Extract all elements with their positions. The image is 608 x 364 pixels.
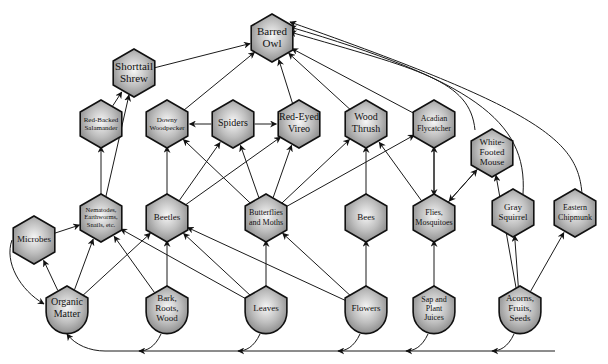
node-label: Bark,Roots,Wood xyxy=(155,293,178,324)
node-gray-squirrel[interactable]: GraySquirrel xyxy=(492,189,534,237)
decay-from-leaves-arrow xyxy=(238,334,260,351)
node-eastern-chipmunk[interactable]: EasternChipmunk xyxy=(554,189,596,237)
decay-flow-layer xyxy=(67,334,555,351)
node-label: Nematodes,Earthworms,Snails, etc. xyxy=(84,206,118,228)
edge-white_footed_mouse-to-flies_mosquitoes xyxy=(449,169,478,201)
node-red-eyed-vireo[interactable]: Red-EyedVireo xyxy=(278,100,320,148)
node-sap-plant-juices[interactable]: Sap andPlantJuices xyxy=(413,286,455,334)
node-flowers[interactable]: Flowers xyxy=(345,286,387,334)
node-label: ShorttailShrew xyxy=(115,59,153,84)
node-label: Red-BackedSalamander xyxy=(84,116,119,132)
edge-organic_matter-to-beetles xyxy=(83,233,150,295)
node-label: Spiders xyxy=(218,117,248,128)
edge-butterflies_moths-to-downy_woodpecker xyxy=(183,140,250,204)
node-wood-thrush[interactable]: WoodThrush xyxy=(345,100,387,148)
node-leaves[interactable]: Leaves xyxy=(245,286,287,334)
node-label: Leaves xyxy=(253,303,279,313)
edge-microbes-to-nematodes xyxy=(55,225,80,233)
edge-butterflies_moths-to-wood_thrush xyxy=(282,139,350,203)
node-nematodes[interactable]: Nematodes,Earthworms,Snails, etc. xyxy=(80,194,122,242)
node-red-backed-salamander[interactable]: Red-BackedSalamander xyxy=(80,100,122,148)
node-acorns-fruits-seeds[interactable]: Acorns,Fruits,Seeds xyxy=(499,286,541,334)
decay-from-sap_plant_juices-arrow xyxy=(406,334,428,351)
edge-butterflies_moths-to-acadian_flycatcher xyxy=(285,135,414,207)
node-bark-roots-wood[interactable]: Bark,Roots,Wood xyxy=(146,286,188,334)
edge-red_eyed_vireo-to-barred_owl xyxy=(279,60,293,104)
edge-acadian_flycatcher-to-barred_owl xyxy=(292,49,415,114)
node-label: Acorns,Fruits,Seeds xyxy=(506,293,534,324)
decay-to-organic-matter-arrow xyxy=(67,334,105,351)
node-label: Butterfliesand Moths xyxy=(249,208,283,226)
node-butterflies-moths[interactable]: Butterfliesand Moths xyxy=(245,194,287,242)
node-shorttail-shrew[interactable]: ShorttailShrew xyxy=(113,49,155,97)
node-label: Microbes xyxy=(17,234,51,244)
node-label: EasternChipmunk xyxy=(558,203,592,221)
node-microbes[interactable]: Microbes xyxy=(13,216,55,264)
node-label: Bees xyxy=(357,212,375,222)
node-label: OrganicMatter xyxy=(51,297,84,320)
edge-downy_woodpecker-to-barred_owl xyxy=(184,52,255,110)
decay-from-acorns_fruits_seeds-arrow xyxy=(492,334,514,351)
edge-organic_matter-to-nematodes xyxy=(74,239,93,290)
edge-red_backed_salamander-to-shorttail_shrew xyxy=(113,92,122,106)
node-acadian-flycatcher[interactable]: AcadianFlycatcher xyxy=(413,100,455,148)
node-label: Flowers xyxy=(352,303,381,313)
edge-shorttail_shrew-to-barred_owl xyxy=(155,44,250,68)
node-label: White-FootedMouse xyxy=(479,137,505,168)
edge-flies_mosquitoes-to-wood_thrush xyxy=(379,142,421,200)
edge-leaves-to-nematodes xyxy=(121,229,247,299)
edge-acorns_fruits_seeds-to-eastern_chipmunk xyxy=(531,233,564,292)
food-web-diagram: BarredOwlShorttailShrewRed-BackedSalaman… xyxy=(0,0,608,364)
node-label: WoodThrush xyxy=(352,112,380,135)
edge-butterflies_moths-to-spiders xyxy=(240,145,258,197)
node-label: AcadianFlycatcher xyxy=(417,114,451,132)
decay-from-bark_roots_wood-arrow xyxy=(139,334,161,351)
decay-from-flowers-arrow xyxy=(338,334,360,351)
node-beetles[interactable]: Beetles xyxy=(146,194,188,242)
edge-beetles-to-spiders xyxy=(179,142,220,200)
node-organic-matter[interactable]: OrganicMatter xyxy=(46,286,88,334)
node-label: Beetles xyxy=(154,212,181,222)
node-bees[interactable]: Bees xyxy=(345,194,387,242)
edge-leaves-to-beetles xyxy=(184,233,251,295)
node-spiders[interactable]: Spiders xyxy=(212,100,254,148)
edge-butterflies_moths-to-red_eyed_vireo xyxy=(273,145,291,197)
node-downy-woodpecker[interactable]: DownyWoodpecker xyxy=(146,100,188,148)
edge-organic_matter-to-microbes xyxy=(44,260,58,290)
node-barred-owl[interactable]: BarredOwl xyxy=(251,14,293,62)
edge-flowers-to-butterflies_moths xyxy=(283,233,350,295)
